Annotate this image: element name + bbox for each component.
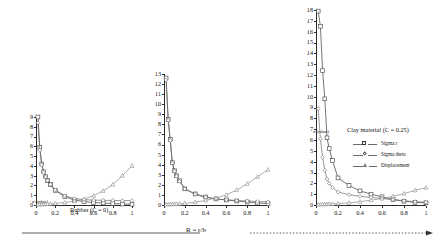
y-axis-tick-mark <box>34 185 36 186</box>
y-axis-tick-label: 0 <box>147 202 161 208</box>
x-axis-tick-mark <box>185 206 186 208</box>
y-axis-tick-label: 0 <box>299 202 313 208</box>
x-axis-tick-mark <box>426 206 427 208</box>
x-axis-tick-label: 0.6 <box>373 210 391 216</box>
y-axis-tick-label: 5 <box>147 152 161 158</box>
x-axis-tick-label: 0 <box>27 210 45 216</box>
y-axis-tick-mark <box>34 156 36 157</box>
y-axis-tick-mark <box>314 140 316 141</box>
y-axis-tick-label: 7 <box>147 131 161 137</box>
y-axis-tick-mark <box>314 43 316 44</box>
x-axis-tick-mark <box>36 206 37 208</box>
y-axis-tick-mark <box>162 94 164 95</box>
x-axis-tick-label: 1 <box>417 210 435 216</box>
x-axis-line <box>36 205 132 206</box>
y-axis-tick-label: 1 <box>299 191 313 197</box>
y-axis-line <box>164 74 165 205</box>
y-axis-tick-label: 8 <box>299 115 313 121</box>
x-axis-tick-label: 0 <box>307 210 325 216</box>
y-axis-tick-label: 9 <box>19 114 33 120</box>
x-axis-tick-label: 0.4 <box>197 210 215 216</box>
y-axis-tick-label: 10 <box>299 94 313 100</box>
y-axis-tick-label: 11 <box>147 91 161 97</box>
x-axis-tick-mark <box>382 206 383 208</box>
figure-root: σ (mbar) Rubber (C = 0) Stress & Displac… <box>0 0 446 241</box>
x-axis-tick-mark <box>226 206 227 208</box>
y-axis-tick-mark <box>314 86 316 87</box>
x-axis-tick-mark <box>338 206 339 208</box>
y-axis-tick-mark <box>314 162 316 163</box>
chart-panel-clay: σ (mbar) Clay material (C = 0.25) Sigma … <box>150 60 300 215</box>
x-axis-tick-label: 0.8 <box>395 210 413 216</box>
y-axis-tick-mark <box>314 129 316 130</box>
x-axis-tick-label: 1 <box>259 210 277 216</box>
global-x-axis-arrow <box>22 231 440 239</box>
x-axis-tick-label: 0.2 <box>46 210 64 216</box>
y-axis-tick-label: 16 <box>299 29 313 35</box>
y-axis-tick-mark <box>34 127 36 128</box>
x-axis-tick-label: 0.8 <box>238 210 256 216</box>
x-axis-tick-mark <box>247 206 248 208</box>
y-axis-tick-label: 14 <box>299 50 313 56</box>
y-axis-tick-label: 3 <box>299 169 313 175</box>
y-axis-tick-label: 18 <box>299 7 313 13</box>
chart-panel-concrete: σ (mbar) Concrete material (C = 0.75) <box>295 0 446 215</box>
y-axis-tick-mark <box>314 173 316 174</box>
y-axis-tick-label: 12 <box>147 81 161 87</box>
x-axis-tick-mark <box>360 206 361 208</box>
y-axis-tick-mark <box>34 137 36 138</box>
y-axis-tick-label: 3 <box>147 172 161 178</box>
y-axis-tick-mark <box>162 195 164 196</box>
x-axis-tick-label: 0.6 <box>85 210 103 216</box>
y-axis-tick-mark <box>162 185 164 186</box>
x-axis-line <box>316 205 426 206</box>
x-axis-tick-mark <box>164 206 165 208</box>
x-axis-tick-mark <box>55 206 56 208</box>
y-axis-tick-mark <box>314 75 316 76</box>
y-axis-tick-mark <box>314 118 316 119</box>
y-axis-tick-label: 5 <box>19 153 33 159</box>
x-axis-tick-label: 0.8 <box>104 210 122 216</box>
y-axis-tick-mark <box>314 183 316 184</box>
x-axis-tick-label: 0 <box>155 210 173 216</box>
x-axis-tick-mark <box>74 206 75 208</box>
y-axis-tick-label: 2 <box>147 182 161 188</box>
y-axis-tick-label: 17 <box>299 18 313 24</box>
y-axis-tick-mark <box>314 53 316 54</box>
y-axis-tick-label: 9 <box>147 111 161 117</box>
y-axis-tick-label: 11 <box>299 83 313 89</box>
y-axis-tick-label: 3 <box>19 173 33 179</box>
y-axis-tick-label: 2 <box>19 182 33 188</box>
x-axis-tick-label: 0.4 <box>351 210 369 216</box>
x-axis-tick-mark <box>206 206 207 208</box>
y-axis-tick-label: 9 <box>299 104 313 110</box>
y-axis-tick-label: 1 <box>147 192 161 198</box>
y-axis-tick-mark <box>314 97 316 98</box>
y-axis-tick-label: 2 <box>299 180 313 186</box>
y-axis-tick-mark <box>314 32 316 33</box>
y-axis-tick-label: 8 <box>147 121 161 127</box>
y-axis-tick-mark <box>314 21 316 22</box>
y-axis-tick-label: 10 <box>147 101 161 107</box>
y-axis-tick-mark <box>314 194 316 195</box>
x-axis-tick-mark <box>94 206 95 208</box>
y-axis-tick-mark <box>162 145 164 146</box>
x-axis-line <box>164 205 268 206</box>
y-axis-tick-mark <box>314 108 316 109</box>
y-axis-tick-mark <box>314 151 316 152</box>
y-axis-tick-label: 5 <box>299 148 313 154</box>
y-axis-tick-mark <box>34 117 36 118</box>
y-axis-tick-label: 4 <box>147 162 161 168</box>
y-axis-tick-label: 12 <box>299 72 313 78</box>
y-axis-line <box>316 10 317 205</box>
x-axis-tick-label: 1 <box>123 210 141 216</box>
y-axis-tick-mark <box>162 114 164 115</box>
y-axis-line <box>36 117 37 205</box>
x-axis-tick-label: 0.6 <box>217 210 235 216</box>
y-axis-tick-label: 0 <box>19 202 33 208</box>
y-axis-tick-mark <box>34 146 36 147</box>
y-axis-tick-mark <box>34 166 36 167</box>
x-axis-tick-mark <box>268 206 269 208</box>
y-axis-tick-label: 6 <box>19 143 33 149</box>
y-axis-tick-label: 13 <box>299 61 313 67</box>
